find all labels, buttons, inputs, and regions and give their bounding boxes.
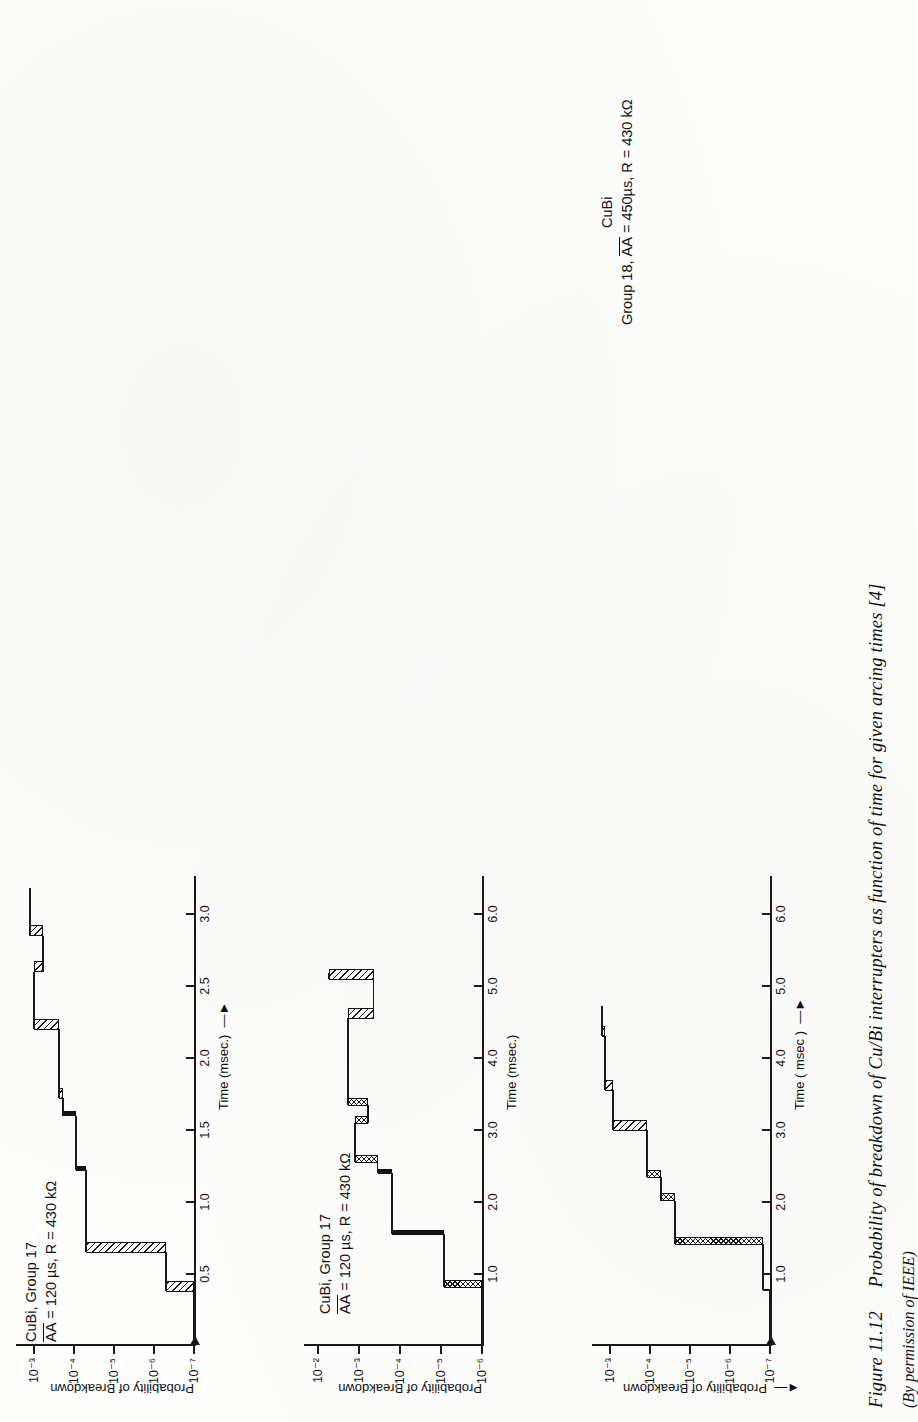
chart-1-x-tick xyxy=(186,1057,195,1059)
chart-3-title-rest: = 450µs, R = 430 kΩ xyxy=(619,99,635,237)
chart-3-y-tick-label: 10⁻⁷ xyxy=(762,1358,777,1410)
chart-2-step-tread xyxy=(328,973,330,979)
chart-3-x-tick-label: 6.0 xyxy=(774,905,788,922)
chart-1-plot-area xyxy=(18,878,194,1346)
chart-1-origin-arrow-icon xyxy=(190,1336,200,1345)
chart-3-step-tread xyxy=(612,1090,614,1130)
chart-3-x-tick xyxy=(762,1129,771,1131)
chart-3-group-label: Group 18, xyxy=(619,256,635,325)
chart-1-x-tick-label: 3.0 xyxy=(198,905,212,922)
chart-1-x-tick-label: 1.5 xyxy=(198,1121,212,1138)
chart-3-step-tread xyxy=(604,1036,606,1090)
chart-1-y-tick xyxy=(153,1345,155,1354)
chart-3-x-axis-title: Time ( msec ) —► xyxy=(792,998,807,1110)
chart-3-step-tread xyxy=(660,1177,662,1201)
chart-2-x-tick-label: 1.0 xyxy=(486,1265,500,1282)
chart-2-riser-hatched xyxy=(348,1008,374,1019)
chart-2-y-tick xyxy=(481,1345,483,1354)
chart-3-title: CuBi Group 18, AA = 450µs, R = 430 kΩ xyxy=(598,99,637,325)
chart-3-x-tick-label: 2.0 xyxy=(774,1193,788,1210)
chart-2-y-tick-label: 10⁻⁴ xyxy=(392,1358,407,1410)
chart-3-x-tick-label: 5.0 xyxy=(774,977,788,994)
chart-1: CuBi, Group 17 AA = 120 µs, R = 430 kΩ P… xyxy=(12,850,240,1410)
chart-3-x-tick xyxy=(762,985,771,987)
chart-3-y-tick-label: 10⁻⁶ xyxy=(722,1358,737,1410)
chart-3-origin-arrow-icon xyxy=(766,1336,776,1345)
chart-2-y-tick xyxy=(440,1345,442,1354)
chart-1-x-tick-label: 2.0 xyxy=(198,1049,212,1066)
chart-1-x-tick xyxy=(186,913,195,915)
chart-3-step-tread xyxy=(762,1244,764,1290)
chart-2-y-tick-label: 10⁻² xyxy=(310,1358,325,1410)
chart-2-x-axis-title: Time (msec.) xyxy=(504,1035,519,1110)
chart-1-x-tick-label: 2.5 xyxy=(198,977,212,994)
chart-3-step-tread xyxy=(601,1006,603,1036)
chart-3-riser-crosshatched xyxy=(647,1170,661,1178)
chart-1-step-tread xyxy=(33,972,35,1030)
chart-2-x-tick xyxy=(474,1129,483,1131)
chart-1-step-tread xyxy=(165,1252,167,1291)
chart-2-step-tread xyxy=(391,1173,393,1234)
chart-2-x-tick-label: 6.0 xyxy=(486,905,500,922)
figure-caption-text: Probability of breakdown of Cu/Bi interr… xyxy=(866,583,886,1287)
chart-1-x-tick xyxy=(186,985,195,987)
chart-2-riser-hatched xyxy=(329,969,374,980)
chart-3-step-tread xyxy=(674,1201,676,1244)
chart-3-y-tick xyxy=(769,1345,771,1354)
chart-1-step-tread xyxy=(193,1291,195,1346)
chart-2-step-tread xyxy=(354,1123,356,1163)
chart-3-riser-hatched xyxy=(613,1120,647,1131)
chart-1-x-tick-label: 0.5 xyxy=(198,1265,212,1282)
chart-3-title-line1: CuBi xyxy=(598,99,618,325)
chart-2-y-tick xyxy=(317,1345,319,1354)
chart-1-riser-hatched xyxy=(30,925,43,936)
chart-1-x-tick xyxy=(186,1273,195,1275)
chart-2-riser-crosshatched xyxy=(355,1116,368,1124)
chart-1-x-tick xyxy=(186,1201,195,1203)
chart-1-x-tick-label: 1.0 xyxy=(198,1193,212,1210)
chart-3-riser-hatched xyxy=(605,1080,613,1091)
chart-3-y-tick xyxy=(649,1345,651,1354)
chart-2-step-tread xyxy=(367,1105,369,1123)
chart-2-x-tick xyxy=(474,913,483,915)
chart-3-x-tick-label: 3.0 xyxy=(774,1121,788,1138)
chart-2-x-tick-label: 2.0 xyxy=(486,1193,500,1210)
chart-3-y-tick xyxy=(729,1345,731,1354)
chart-1-x-axis-title: Time (msec.) —► xyxy=(216,1002,231,1110)
chart-2-x-axis xyxy=(482,876,484,1346)
chart-1-step-tread xyxy=(42,936,44,972)
chart-1-riser-hatched xyxy=(86,1242,166,1253)
chart-3-x-tick xyxy=(762,913,771,915)
chart-2-x-tick-label: 3.0 xyxy=(486,1121,500,1138)
chart-2-y-tick-label: 10⁻³ xyxy=(351,1358,366,1410)
chart-2-y-tick-label: 10⁻⁶ xyxy=(474,1358,489,1410)
chart-3-riser-crosshatched xyxy=(661,1193,675,1201)
chart-3: CuBi Group 18, AA = 450µs, R = 430 kΩ ◄—… xyxy=(588,850,816,1410)
chart-2-riser-crosshatched xyxy=(348,1098,368,1106)
chart-3-step-tread xyxy=(769,1290,771,1346)
chart-3-x-tick-label: 4.0 xyxy=(774,1049,788,1066)
chart-3-overline-token: AA xyxy=(619,237,635,256)
chart-2-x-tick xyxy=(474,985,483,987)
chart-1-x-axis xyxy=(194,876,196,1346)
chart-1-y-tick-label: 10⁻⁵ xyxy=(106,1358,121,1410)
chart-1-riser-hatched xyxy=(34,1019,59,1030)
chart-3-y-tick xyxy=(609,1345,611,1354)
chart-3-title-line2: Group 18, AA = 450µs, R = 430 kΩ xyxy=(618,99,638,325)
chart-3-x-tick xyxy=(762,1057,771,1059)
chart-1-y-tick-label: 10⁻⁴ xyxy=(66,1358,81,1410)
chart-1-step-tread xyxy=(58,1029,60,1098)
chart-1-riser-solid xyxy=(76,1166,86,1171)
chart-1-y-tick-label: 10⁻⁷ xyxy=(186,1358,201,1410)
chart-2-step-tread xyxy=(347,1018,349,1104)
chart-2-step-tread xyxy=(373,979,375,1019)
chart-3-x-tick-label: 1.0 xyxy=(774,1265,788,1282)
chart-2-riser-solid xyxy=(392,1230,444,1235)
chart-2-y-tick-label: 10⁻⁵ xyxy=(433,1358,448,1410)
chart-1-y-tick xyxy=(73,1345,75,1354)
chart-3-y-tick-label: 10⁻⁴ xyxy=(642,1358,657,1410)
chart-1-x-tick xyxy=(186,1129,195,1131)
x-axis-arrow-icon: —► xyxy=(216,1002,231,1031)
chart-1-y-tick-label: 10⁻⁶ xyxy=(146,1358,161,1410)
